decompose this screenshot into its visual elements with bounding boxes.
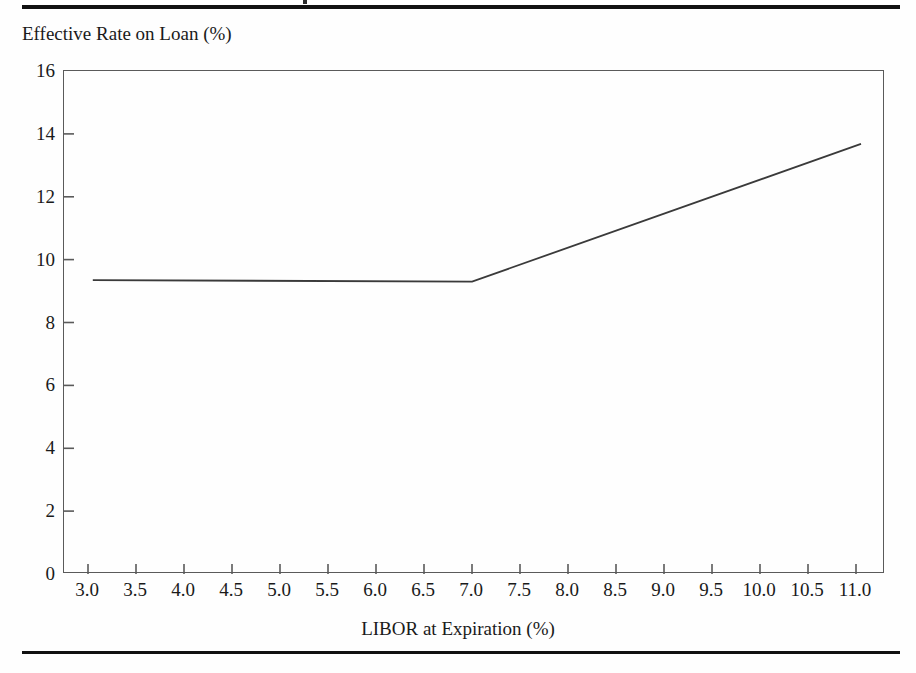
x-tick-label: 10.0 — [742, 580, 775, 599]
x-tick-label: 4.5 — [219, 580, 243, 599]
x-axis-tick-labels: 3.0 3.5 4.0 4.5 5.0 5.5 6.0 6.5 7.0 7.5 … — [0, 0, 916, 673]
x-tick-label: 8.5 — [603, 580, 627, 599]
x-tick-label: 3.0 — [75, 580, 99, 599]
x-axis-title: LIBOR at Expiration (%) — [0, 617, 916, 641]
x-tick-label: 10.5 — [790, 580, 823, 599]
x-tick-label: 9.0 — [651, 580, 675, 599]
x-tick-label: 7.0 — [459, 580, 483, 599]
x-tick-label: 9.5 — [699, 580, 723, 599]
figure-bottom-rule — [22, 651, 900, 654]
x-tick-label: 6.0 — [363, 580, 387, 599]
x-tick-label: 5.5 — [315, 580, 339, 599]
x-tick-label: 5.0 — [267, 580, 291, 599]
x-tick-label: 6.5 — [411, 580, 435, 599]
x-tick-label: 4.0 — [171, 580, 195, 599]
x-tick-label: 3.5 — [123, 580, 147, 599]
x-tick-label: 11.0 — [839, 580, 872, 599]
figure-container: Effective Rate on Loan (%) 16 14 12 10 8… — [0, 0, 916, 673]
x-tick-label: 7.5 — [507, 580, 531, 599]
x-tick-label: 8.0 — [555, 580, 579, 599]
